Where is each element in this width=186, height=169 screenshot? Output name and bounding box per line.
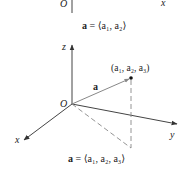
y-axis bbox=[72, 104, 177, 124]
projection-line-xy bbox=[72, 104, 131, 148]
z-axis-label: z bbox=[61, 41, 66, 52]
top-caption: a = ⟨a₁, a₂⟩ bbox=[82, 20, 126, 31]
top-x-axis-label: x bbox=[160, 0, 166, 8]
vector-diagrams: O x a = ⟨a₁, a₂⟩ z x y O a (a₁, a₂, a₃) … bbox=[0, 0, 186, 169]
point-dot bbox=[129, 76, 133, 80]
top-origin-label: O bbox=[60, 0, 67, 9]
vector-a-label: a bbox=[93, 81, 98, 92]
y-axis-label: y bbox=[169, 129, 175, 140]
x-axis bbox=[24, 104, 72, 140]
point-label: (a₁, a₂, a₃) bbox=[111, 63, 149, 74]
top-2d-diagram: O x a = ⟨a₁, a₂⟩ bbox=[60, 0, 166, 31]
diagram-3d: z x y O a (a₁, a₂, a₃) a = ⟨a₁, a₂, a₃⟩ bbox=[14, 41, 177, 164]
top-caption-rest: = ⟨a₁, a₂⟩ bbox=[87, 20, 126, 31]
caption-3d: a = ⟨a₁, a₂, a₃⟩ bbox=[68, 153, 125, 164]
vector-a-arrow bbox=[72, 79, 129, 104]
x-axis-label: x bbox=[14, 134, 20, 145]
origin-label: O bbox=[60, 98, 67, 109]
caption-3d-rest: = ⟨a₁, a₂, a₃⟩ bbox=[73, 153, 125, 164]
